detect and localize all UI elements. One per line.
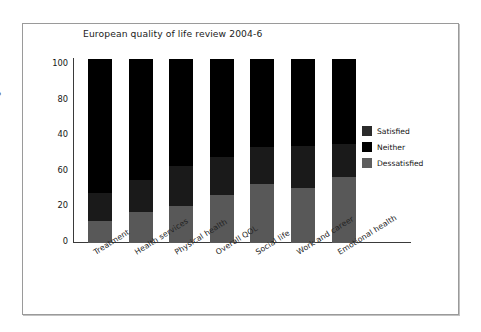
y-axis-tick-label: 60 xyxy=(57,165,68,175)
y-axis-tick-label: 80 xyxy=(57,94,68,104)
bar-group xyxy=(129,59,153,243)
y-axis-title: Percentage xyxy=(0,86,1,131)
chart-legend: SatisfiedNeitherDessatisfied xyxy=(362,123,423,171)
bar-group xyxy=(250,59,274,243)
legend-label: Neither xyxy=(377,143,405,152)
plot-area xyxy=(73,58,411,243)
legend-swatch-icon xyxy=(362,158,372,168)
bar-segment xyxy=(88,193,112,221)
legend-label: Satisfied xyxy=(377,127,410,136)
bar-segment xyxy=(291,146,315,188)
bar-segment xyxy=(129,180,153,211)
bar-segment xyxy=(169,166,193,206)
bar-segment xyxy=(169,59,193,166)
y-axis-tick-label: 40 xyxy=(57,129,68,139)
bar-group xyxy=(88,59,112,243)
legend-item: Satisfied xyxy=(362,123,423,139)
bar-segment xyxy=(88,59,112,193)
legend-label: Dessatisfied xyxy=(377,159,423,168)
bar-segment xyxy=(210,157,234,196)
chart-title: European quality of life review 2004-6 xyxy=(83,28,262,39)
bar-segment xyxy=(250,59,274,147)
bar-group xyxy=(210,59,234,243)
y-axis-tick-labels: 100804060200 xyxy=(40,0,68,332)
y-axis-tick-label: 20 xyxy=(57,200,68,210)
bar-segment xyxy=(332,144,356,177)
bar-segment xyxy=(291,59,315,145)
y-axis-tick-label: 0 xyxy=(63,236,68,246)
bar-segment xyxy=(291,188,315,243)
legend-swatch-icon xyxy=(362,142,372,152)
bar-segment xyxy=(210,59,234,157)
bar-group xyxy=(169,59,193,243)
bar-segment xyxy=(129,59,153,180)
bar-segment xyxy=(332,59,356,144)
bar-segment xyxy=(250,147,274,184)
legend-item: Dessatisfied xyxy=(362,155,423,171)
legend-swatch-icon xyxy=(362,126,372,136)
y-axis-tick-label: 100 xyxy=(52,58,68,68)
bar-group xyxy=(291,59,315,243)
legend-item: Neither xyxy=(362,139,423,155)
